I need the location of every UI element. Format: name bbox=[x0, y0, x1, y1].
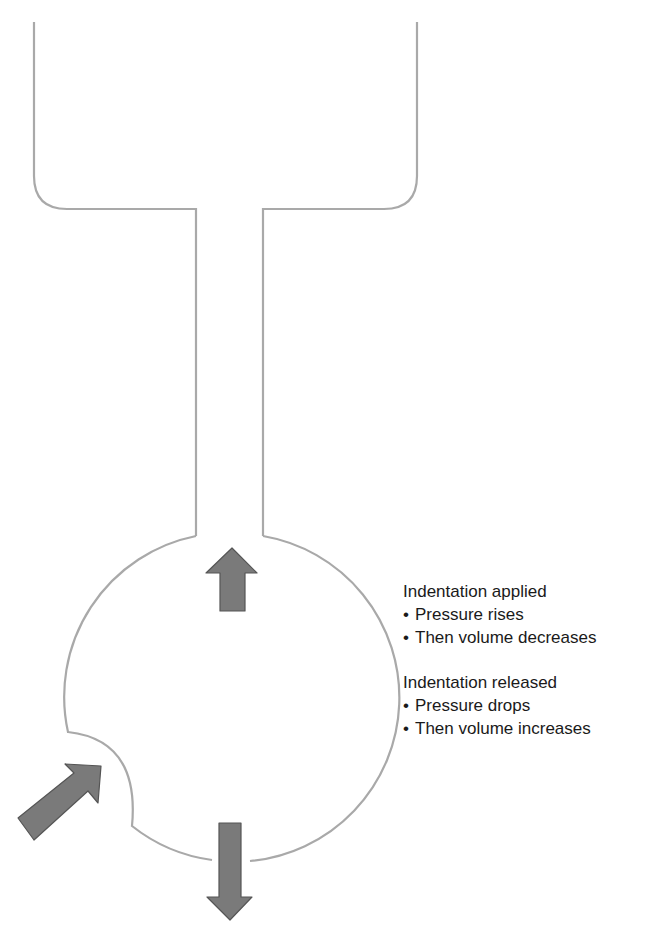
bulb-outline-right bbox=[250, 536, 399, 861]
reservoir-outline bbox=[34, 22, 196, 536]
bullet-icon: • bbox=[403, 603, 415, 626]
applied-heading: Indentation applied bbox=[403, 580, 596, 603]
reservoir-outline-right bbox=[263, 22, 417, 536]
applied-group: Indentation applied •Pressure rises •The… bbox=[403, 580, 596, 649]
bulb-outline bbox=[64, 536, 212, 860]
applied-bullet-2: •Then volume decreases bbox=[403, 626, 596, 649]
released-bullet-2: •Then volume increases bbox=[403, 717, 596, 740]
released-bullet-1: •Pressure drops bbox=[403, 694, 596, 717]
annotation-labels: Indentation applied •Pressure rises •The… bbox=[403, 580, 596, 740]
bullet-icon: • bbox=[403, 626, 415, 649]
bullet-icon: • bbox=[403, 694, 415, 717]
released-heading: Indentation released bbox=[403, 671, 596, 694]
applied-bullet-1: •Pressure rises bbox=[403, 603, 596, 626]
indentation-arrow-icon bbox=[18, 764, 101, 840]
tonometry-diagram bbox=[0, 0, 659, 935]
released-group: Indentation released •Pressure drops •Th… bbox=[403, 671, 596, 740]
up-arrow-icon bbox=[206, 548, 257, 611]
bullet-icon: • bbox=[403, 717, 415, 740]
down-arrow-icon bbox=[207, 823, 252, 920]
